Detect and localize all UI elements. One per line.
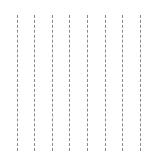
dashed-line-3 [52,15,53,151]
dashed-line-6 [105,15,106,151]
dashed-line-4 [69,15,70,151]
dashed-line-1 [17,15,18,151]
dashed-line-7 [122,15,123,151]
dashed-line-2 [34,15,35,151]
dashed-line-5 [87,15,88,151]
dashed-line-8 [140,15,141,151]
